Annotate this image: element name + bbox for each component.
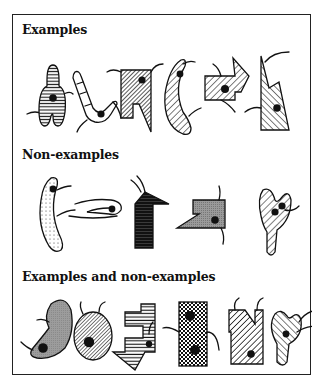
figure-striped-y-blob — [271, 310, 312, 365]
figure-striped-oval — [74, 302, 112, 360]
figure-black-arrow-block — [131, 176, 169, 248]
diagram-frame: Examples — [12, 14, 311, 375]
figure-double-spike — [245, 52, 289, 130]
figure-checkered-rectangle — [163, 302, 219, 366]
section-title-non-examples: Non-examples — [22, 147, 119, 162]
section-title-examples: Examples — [22, 22, 87, 37]
figure-crescent — [165, 60, 201, 135]
figure-hairpin-loop — [69, 200, 121, 219]
figure-gray-kidney — [21, 300, 72, 358]
figure-arrow-block — [205, 58, 249, 112]
figure-y-blob — [259, 189, 299, 255]
non-examples-row — [13, 170, 312, 262]
figure-down-arrow-block — [113, 304, 155, 370]
figure-keyhole-blob — [27, 65, 73, 126]
section-title-examples-and-non-examples: Examples and non-examples — [22, 269, 215, 284]
figure-flag-rectangle — [107, 64, 163, 132]
figure-striped-n-block — [229, 298, 263, 364]
figure-dotted-crescent — [40, 178, 75, 252]
figure-bent-rod — [73, 72, 121, 133]
examples-and-non-examples-row — [13, 292, 312, 376]
examples-row — [13, 48, 312, 140]
figure-gray-notched-block — [177, 186, 225, 244]
